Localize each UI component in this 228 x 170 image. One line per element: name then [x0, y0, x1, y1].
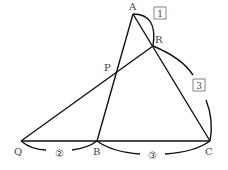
- point-r-label: R: [155, 34, 163, 45]
- point-b-label: B: [93, 146, 100, 157]
- point-q-label: Q: [14, 146, 22, 157]
- arc-bc-right: [165, 141, 210, 154]
- ratio-bc-label: ③: [148, 150, 157, 161]
- ratio-rc-label: 3: [196, 81, 202, 91]
- point-p-label: P: [104, 62, 111, 73]
- segment-qr: [21, 46, 153, 141]
- ratio-ar-label: 1: [157, 9, 163, 19]
- ratio-qb-label: ②: [55, 148, 64, 159]
- arc-qb-left: [21, 141, 46, 150]
- point-a-label: A: [128, 1, 137, 12]
- geometry-diagram: 1 3 ② ③ A R P Q B C: [0, 0, 228, 170]
- arc-bc-left: [97, 141, 140, 154]
- segment-ac: [133, 14, 210, 141]
- arc-rc-top: [153, 46, 193, 75]
- segment-ab: [97, 14, 133, 141]
- point-c-label: C: [205, 146, 213, 157]
